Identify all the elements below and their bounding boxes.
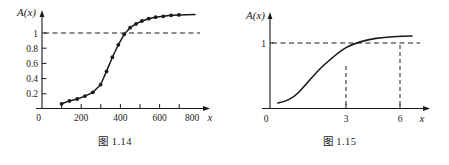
x-tick-label-600: 600	[152, 113, 167, 123]
y-axis-arrow-1-15	[268, 12, 273, 19]
x-axis-arrow-1-15	[423, 106, 430, 111]
y-tick-label-0-2: 0.2	[26, 89, 38, 99]
plot-1-14: A(x) 1 0.8 0.6 0.4 0.2 0 200 400 600 800…	[0, 0, 230, 130]
x-ticks-1-14	[62, 104, 180, 109]
y-tick-label-1: 1	[33, 29, 38, 39]
y-axis-label-1-14: A(x)	[16, 6, 36, 19]
y-tick-label-0-6: 0.6	[26, 59, 38, 69]
data-curve-1-15	[278, 36, 412, 103]
x-ticks-1-15	[346, 104, 400, 109]
figure-1-15: A(x) 1 0 3 6 x 图 1.15	[230, 0, 449, 165]
x-tick-label-200: 200	[74, 113, 89, 123]
y-tick-label-0-8: 0.8	[26, 44, 38, 54]
y-tick-label-1-15: 1	[261, 39, 266, 49]
x-axis-label-1-15: x	[419, 112, 425, 124]
y-axis-arrow-1-14	[40, 10, 45, 17]
figure-1-14: A(x) 1 0.8 0.6 0.4 0.2 0 200 400 600 800…	[0, 0, 230, 165]
x-tick-label-0-1-15: 0	[264, 114, 269, 124]
y-tick-label-0-4: 0.4	[26, 74, 38, 84]
x-tick-label-3: 3	[344, 114, 349, 124]
data-points-1-14	[60, 13, 181, 106]
x-tick-label-0: 0	[36, 113, 41, 123]
x-tick-label-6: 6	[398, 114, 403, 124]
figure-caption-1-14: 图 1.14	[0, 133, 230, 148]
x-tick-label-800: 800	[185, 113, 200, 123]
x-axis-label-1-14: x	[207, 111, 213, 123]
plot-1-15: A(x) 1 0 3 6 x	[230, 0, 449, 130]
y-ticks-1-14	[42, 33, 47, 94]
x-tick-label-400: 400	[113, 113, 128, 123]
y-axis-label-1-15: A(x)	[245, 9, 265, 22]
figure-pair: A(x) 1 0.8 0.6 0.4 0.2 0 200 400 600 800…	[0, 0, 449, 165]
figure-caption-1-15: 图 1.15	[230, 133, 449, 148]
